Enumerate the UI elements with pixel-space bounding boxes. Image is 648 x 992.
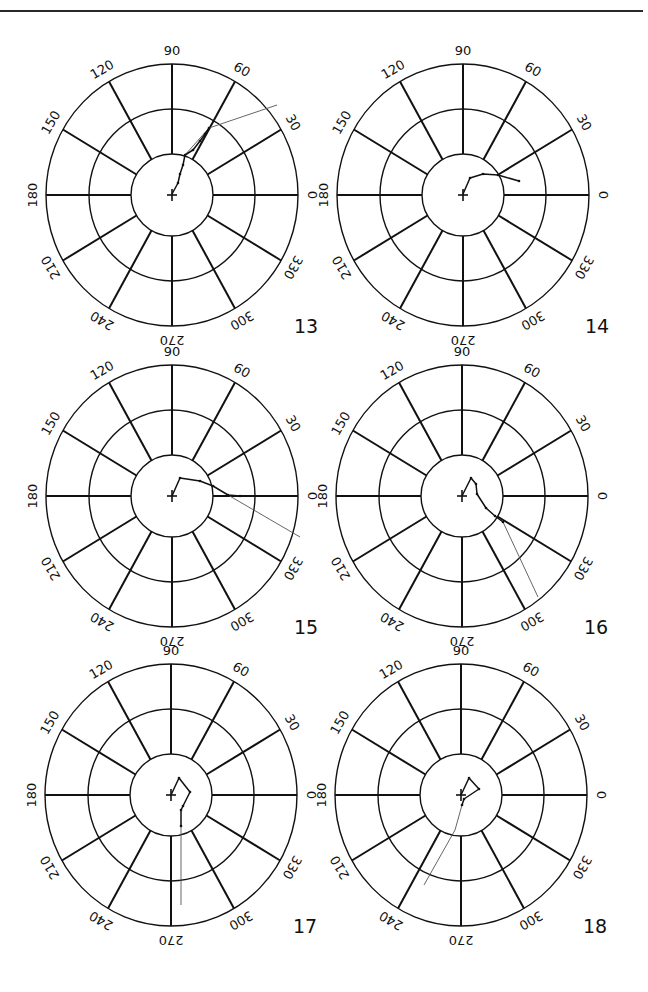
angle-label-120: 120 [378,57,407,82]
angle-label-90: 90 [164,43,181,58]
spoke-60 [484,82,527,160]
spoke-210 [352,816,426,861]
angle-label-90: 90 [164,344,181,359]
track-line [172,478,240,496]
angle-label-150: 150 [327,708,352,737]
angle-label-150: 150 [37,708,62,737]
polar-plot-17: 030609012015018021024027030033017 [24,643,319,948]
angle-label-30: 30 [283,413,304,435]
angle-label-60: 60 [520,659,542,680]
angle-label-330: 330 [280,853,305,882]
spoke-300 [482,831,525,909]
angle-label-330: 330 [281,554,306,583]
angle-label-90: 90 [455,43,472,58]
spoke-240 [400,231,443,309]
track-point [463,798,466,801]
angle-label-150: 150 [328,409,353,438]
angle-label-180: 180 [25,183,40,208]
track-point [478,788,481,791]
track-point [497,174,500,177]
track-line [461,778,479,805]
angle-label-30: 30 [282,712,303,734]
track-point [482,173,485,176]
polar-plot-13: 030609012015018021024027030033013 [25,43,320,348]
spoke-300 [484,231,527,309]
spoke-60 [193,383,236,461]
spoke-300 [483,532,526,610]
track-point [179,477,182,480]
spoke-60 [193,82,236,160]
spoke-300 [193,532,236,610]
spoke-60 [482,682,525,760]
spoke-30 [498,431,572,476]
polar-plot-18: 030609012015018021024027030033018 [314,643,609,948]
angle-label-300: 300 [517,609,546,634]
track-point [184,154,187,157]
spoke-60 [483,383,526,461]
plot-number-13: 13 [294,315,318,337]
angle-label-120: 120 [87,57,116,82]
angle-label-120: 120 [86,657,115,682]
spoke-120 [400,82,443,160]
track-point [180,809,183,812]
spoke-150 [354,130,428,175]
spoke-150 [62,730,136,775]
angle-label-0: 0 [595,492,610,500]
angle-label-270: 270 [449,933,474,948]
spoke-210 [354,216,428,261]
angle-label-150: 150 [38,409,63,438]
angle-label-240: 240 [376,908,405,933]
track-point [469,177,472,180]
spoke-120 [398,682,441,760]
track-point [180,825,183,828]
spoke-240 [109,231,152,309]
plot-number-14: 14 [585,315,609,337]
spoke-120 [109,383,152,461]
angle-label-270: 270 [159,933,184,948]
angle-label-120: 120 [377,358,406,383]
track-point [475,483,478,486]
angle-label-330: 330 [570,853,595,882]
spoke-120 [108,682,151,760]
spoke-240 [109,532,152,610]
angle-label-120: 120 [87,358,116,383]
angle-label-210: 210 [327,853,352,882]
page: 0306090120150180210240270300330130306090… [0,0,648,992]
angle-label-330: 330 [281,253,306,282]
spoke-30 [208,130,282,175]
track-point [182,164,185,167]
spoke-60 [192,682,235,760]
angle-label-300: 300 [226,908,255,933]
track-point [208,127,211,130]
angle-label-60: 60 [230,659,252,680]
spoke-30 [207,730,281,775]
spoke-150 [352,730,426,775]
angle-label-60: 60 [231,59,253,80]
spoke-210 [63,517,137,562]
angle-label-210: 210 [328,554,353,583]
spoke-300 [192,831,235,909]
spoke-300 [193,231,236,309]
track-point [178,777,181,780]
angle-label-330: 330 [571,554,596,583]
angle-label-240: 240 [87,609,116,634]
track-point [199,480,202,483]
angle-label-90: 90 [454,344,471,359]
angle-label-30: 30 [573,413,594,435]
angle-label-240: 240 [86,908,115,933]
angle-label-0: 0 [594,791,609,799]
plot-number-17: 17 [293,915,317,937]
spoke-120 [399,383,442,461]
track-point [470,477,473,480]
track-point [192,149,195,152]
track-point [199,140,202,143]
angle-label-240: 240 [377,609,406,634]
angle-label-60: 60 [521,360,543,381]
polar-plot-16: 030609012015018021024027030033016 [315,344,610,649]
angle-label-180: 180 [24,783,39,808]
angle-label-60: 60 [522,59,544,80]
track-thin-line [503,522,538,597]
track-point [494,515,497,518]
track-point [212,485,215,488]
spoke-120 [109,82,152,160]
